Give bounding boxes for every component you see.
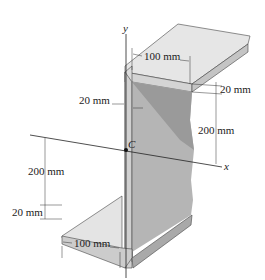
dim-top-flange-thickness: 20 mm xyxy=(220,83,251,95)
y-axis-label: y xyxy=(122,22,128,34)
dim-bottom-flange-thickness: 20 mm xyxy=(12,206,43,218)
dim-bottom-flange-width: 100 mm xyxy=(74,237,111,249)
centroid-label: C xyxy=(128,138,136,150)
x-axis-label: x xyxy=(223,160,229,172)
dim-top-flange-width: 100 mm xyxy=(144,50,181,62)
dim-web-thickness: 20 mm xyxy=(79,94,110,106)
z-section-diagram: y x C 100 mm 20 mm 20 mm 200 mm 200 mm 2… xyxy=(0,0,265,280)
dim-web-lower-height: 200 mm xyxy=(28,165,65,177)
dim-web-upper-height: 200 mm xyxy=(198,124,235,136)
